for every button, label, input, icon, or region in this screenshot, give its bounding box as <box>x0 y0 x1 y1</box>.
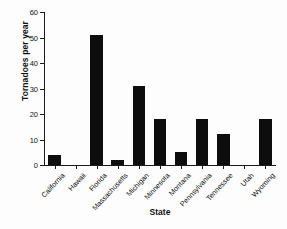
x-tick <box>118 165 119 169</box>
bar <box>48 155 61 165</box>
x-tick <box>160 165 161 169</box>
x-tick <box>265 165 266 169</box>
y-tick-label: 60 <box>30 8 38 17</box>
x-tick-label: California <box>39 171 66 199</box>
x-tick <box>223 165 224 169</box>
bar <box>196 119 209 165</box>
y-tick-label: 0 <box>34 161 38 170</box>
x-tick <box>97 165 98 169</box>
y-tick-label: 20 <box>30 110 38 119</box>
plot-area: 0102030405060 CaliforniaHawaiiFloridaMas… <box>44 12 276 165</box>
bar <box>154 119 167 165</box>
y-tick-label: 40 <box>30 59 38 68</box>
x-tick <box>202 165 203 169</box>
x-tick-label: Utah <box>239 171 256 188</box>
chart-figure: Tornadoes per year 0102030405060 Califor… <box>0 0 287 229</box>
bar <box>90 35 103 165</box>
bar <box>133 86 146 165</box>
y-tick-label: 30 <box>30 84 38 93</box>
y-tick-label-holder: 0 <box>44 165 45 166</box>
bar <box>175 152 188 165</box>
x-tick-label: Hawaii <box>66 171 87 193</box>
x-axis-title: State <box>44 207 276 217</box>
x-tick <box>55 165 56 169</box>
y-tick-label: 50 <box>30 33 38 42</box>
x-tick <box>139 165 140 169</box>
x-tick <box>76 165 77 169</box>
x-tick <box>181 165 182 169</box>
y-tick-label: 10 <box>30 135 38 144</box>
bar-group <box>44 12 276 165</box>
bar <box>259 119 272 165</box>
x-tick <box>244 165 245 169</box>
y-axis-title: Tornadoes per year <box>20 0 30 126</box>
bar <box>217 134 230 165</box>
